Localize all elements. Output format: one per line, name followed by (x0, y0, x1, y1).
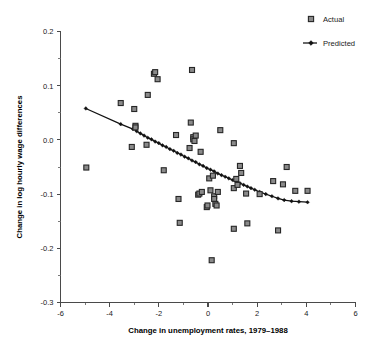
predicted-point-marker (282, 198, 286, 202)
y-tick-label: 0.2 (43, 27, 53, 36)
predicted-series-group (84, 107, 309, 204)
predicted-point-marker (119, 122, 123, 126)
y-tick-label: -0.1 (41, 190, 54, 199)
actual-point-marker (237, 163, 242, 168)
actual-point-marker (133, 125, 138, 130)
actual-point-marker (231, 141, 236, 146)
scatter-plot: 0.20.10.0-0.1-0.2-0.3-6-4-20246 ActualPr… (0, 0, 386, 353)
actual-point-marker (176, 196, 181, 201)
actual-point-marker (234, 176, 239, 181)
actual-point-marker (198, 149, 203, 154)
y-tick-label: -0.3 (41, 298, 54, 307)
x-tick-label: 0 (206, 309, 210, 318)
actual-point-marker (205, 203, 210, 208)
actual-point-marker (210, 173, 215, 178)
actual-point-marker (145, 92, 150, 97)
x-tick-label: -6 (57, 309, 64, 318)
predicted-point-marker (242, 183, 246, 187)
y-tick-label: 0.0 (43, 136, 53, 145)
y-axis-title: Change in log hourly wage differences (15, 95, 24, 239)
actual-point-marker (271, 179, 276, 184)
actual-point-marker (155, 77, 160, 82)
actual-point-marker (231, 226, 236, 231)
actual-point-marker (214, 203, 219, 208)
axis-titles-group: Change in unemployment rates, 1979–1988C… (15, 95, 288, 335)
actual-point-marker (305, 188, 310, 193)
actual-point-marker (284, 165, 289, 170)
x-tick-label: 2 (255, 309, 259, 318)
actual-point-marker (188, 120, 193, 125)
predicted-line (86, 108, 308, 202)
actual-point-marker (209, 258, 214, 263)
actual-point-marker (212, 196, 217, 201)
actual-point-marker (129, 144, 134, 149)
actual-point-marker (174, 133, 179, 138)
predicted-point-marker (264, 192, 268, 196)
actual-point-marker (144, 142, 149, 147)
predicted-point-marker (253, 188, 257, 192)
actual-point-marker (84, 165, 89, 170)
actual-series-group (84, 67, 310, 262)
x-tick-label: -4 (106, 309, 113, 318)
predicted-point-marker (223, 175, 227, 179)
legend-actual-label: Actual (323, 15, 344, 24)
predicted-point-marker (220, 173, 224, 177)
actual-point-marker (193, 133, 198, 138)
actual-point-marker (276, 228, 281, 233)
chart-figure: 0.20.10.0-0.1-0.2-0.3-6-4-20246 ActualPr… (0, 0, 386, 353)
predicted-point-marker (227, 177, 231, 181)
actual-point-marker (215, 189, 220, 194)
legend-predicted-marker (309, 41, 314, 46)
predicted-point-marker (276, 197, 280, 201)
actual-point-marker (293, 188, 298, 193)
x-tick-label: -2 (155, 309, 162, 318)
predicted-point-marker (209, 168, 213, 172)
legend-group: ActualPredicted (303, 15, 355, 48)
legend-actual-marker (308, 16, 313, 21)
actual-point-marker (199, 189, 204, 194)
actual-point-marker (208, 188, 213, 193)
actual-point-marker (244, 191, 249, 196)
y-tick-label: -0.2 (41, 244, 54, 253)
actual-point-marker (132, 107, 137, 112)
actual-point-marker (239, 170, 244, 175)
actual-point-marker (192, 138, 197, 143)
axes-group: 0.20.10.0-0.1-0.2-0.3-6-4-20246 (41, 27, 358, 318)
predicted-point-marker (270, 194, 274, 198)
actual-point-marker (118, 101, 123, 106)
actual-point-marker (280, 182, 285, 187)
predicted-point-marker (84, 107, 88, 111)
actual-point-marker (235, 182, 240, 187)
actual-point-marker (187, 146, 192, 151)
actual-point-marker (257, 192, 262, 197)
legend-predicted-label: Predicted (323, 39, 355, 48)
actual-point-marker (218, 128, 223, 133)
predicted-point-marker (290, 199, 294, 203)
actual-point-marker (245, 221, 250, 226)
predicted-point-marker (249, 186, 253, 190)
predicted-point-marker (245, 185, 249, 189)
actual-point-marker (153, 70, 158, 75)
x-tick-label: 4 (304, 309, 308, 318)
x-axis-title: Change in unemployment rates, 1979–1988 (128, 326, 288, 335)
y-tick-label: 0.1 (43, 82, 53, 91)
actual-point-marker (190, 67, 195, 72)
actual-point-marker (161, 168, 166, 173)
predicted-point-marker (297, 200, 301, 204)
predicted-point-marker (306, 200, 310, 204)
actual-point-marker (177, 220, 182, 225)
x-tick-label: 6 (353, 309, 357, 318)
